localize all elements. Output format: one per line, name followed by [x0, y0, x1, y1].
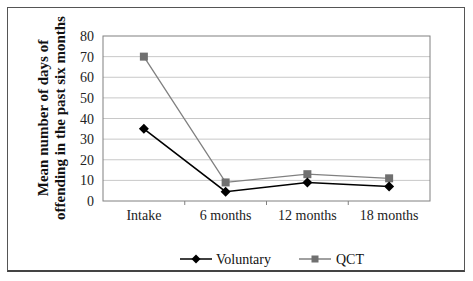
square-marker-icon	[303, 170, 311, 178]
legend: Voluntary QCT	[180, 252, 364, 267]
y-tick-label: 10	[80, 173, 94, 188]
y-tick-label: 50	[80, 91, 94, 106]
line-chart: Mean number of days of offending in the …	[0, 0, 473, 281]
y-tick-label: 40	[80, 112, 94, 127]
diamond-marker-icon	[192, 255, 201, 264]
y-tick-label: 20	[80, 153, 94, 168]
y-tick-label: 80	[80, 29, 94, 44]
legend-label-qct: QCT	[336, 252, 364, 267]
y-axis-title-line-2: offending in the past six months	[52, 16, 68, 220]
y-tick-label: 0	[87, 194, 94, 209]
legend-item-voluntary: Voluntary	[180, 252, 271, 267]
series-qct	[140, 53, 393, 187]
x-tick-label: 12 months	[278, 208, 337, 223]
square-marker-icon	[312, 256, 319, 263]
legend-item-qct: QCT	[299, 252, 364, 267]
y-tick-label: 70	[80, 50, 94, 65]
x-tick-label: 18 months	[360, 208, 419, 223]
y-axis-title: Mean number of days of offending in the …	[35, 16, 68, 220]
square-marker-icon	[140, 53, 148, 61]
y-axis-ticks: 01020304050607080	[80, 29, 94, 209]
y-tick-label: 30	[80, 132, 94, 147]
square-marker-icon	[385, 174, 393, 182]
diamond-marker-icon	[302, 177, 312, 187]
square-marker-icon	[222, 178, 230, 186]
y-tick-label: 60	[80, 70, 94, 85]
legend-label-voluntary: Voluntary	[216, 252, 271, 267]
x-tick-label: 6 months	[200, 208, 252, 223]
diamond-marker-icon	[384, 182, 394, 192]
y-axis-title-line-1: Mean number of days of	[35, 39, 51, 196]
series-voluntary	[139, 124, 394, 197]
series-lines	[139, 53, 394, 197]
x-tick-label: Intake	[126, 208, 161, 223]
gridlines	[103, 57, 430, 181]
x-axis-ticks: Intake6 months12 months18 months	[126, 201, 418, 223]
